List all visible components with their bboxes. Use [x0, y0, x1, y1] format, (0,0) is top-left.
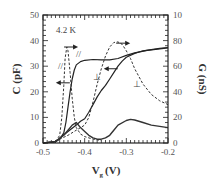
y-right-tick-label: 60 [173, 61, 183, 71]
y-left-tick-label: 0 [35, 138, 40, 148]
y-left-tick-label: 20 [30, 87, 40, 97]
y-right-tick-label: 10 [173, 10, 183, 20]
curve-label: ⊥ [133, 79, 141, 89]
y-right-tick-label: 0 [173, 138, 178, 148]
chart: -0.5-0.4-0.3-0.20102030405002040608010 /… [0, 0, 209, 185]
x-tick-label: -0.2 [161, 147, 175, 157]
y-right-tick-label: 20 [173, 112, 183, 122]
x-axis-title-main: V [92, 164, 100, 176]
curve-label: // [76, 49, 82, 59]
y-left-tick-label: 50 [30, 10, 40, 20]
x-tick-label: -0.4 [78, 147, 93, 157]
temperature-label: 4.2 K [56, 25, 77, 35]
x-axis-title-unit: (V) [105, 164, 121, 177]
series-line [43, 119, 168, 143]
data-series [43, 42, 168, 143]
y-left-axis-title: C (pF) [10, 63, 23, 94]
annotations: ////⊥⊥ [56, 41, 141, 89]
arrow-left-icon [56, 80, 70, 85]
curve-label: ⊥ [93, 72, 101, 82]
x-axis-title-sub: g [100, 171, 104, 179]
y-right-axis-title: G (nS) [196, 64, 209, 95]
y-right-tick-label: 80 [173, 36, 183, 46]
x-tick-label: -0.3 [119, 147, 134, 157]
y-left-tick-label: 30 [30, 61, 40, 71]
curve-label: // [58, 61, 64, 71]
series-line [43, 42, 168, 143]
x-tick-label: -0.5 [36, 147, 51, 157]
x-axis-title: Vg(V) [92, 164, 121, 179]
arrow-right-icon [116, 41, 130, 46]
y-left-tick-label: 40 [30, 36, 40, 46]
y-right-tick-label: 40 [173, 87, 183, 97]
y-left-tick-label: 10 [30, 112, 40, 122]
